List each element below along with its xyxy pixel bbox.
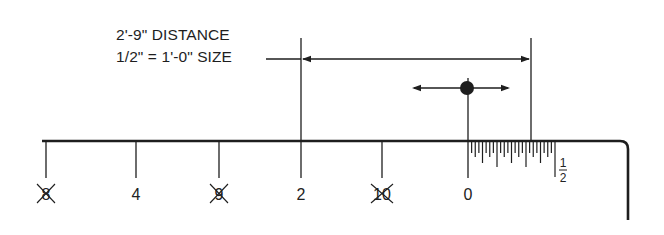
scale-drawing: 849210012 bbox=[0, 0, 664, 235]
tick-label-8: 8 bbox=[42, 186, 51, 203]
fraction-denominator: 2 bbox=[560, 171, 567, 185]
architect-scale-diagram: 2'-9" DISTANCE 1/2" = 1'-0" SIZE 8492100… bbox=[0, 0, 664, 235]
fraction-numerator: 1 bbox=[560, 156, 567, 170]
marker-dot-icon bbox=[460, 81, 474, 95]
tick-label-4: 4 bbox=[132, 186, 141, 203]
dimension-arrow-left-icon bbox=[302, 56, 311, 62]
scale-size-label: 1/2" = 1'-0" SIZE bbox=[116, 48, 232, 66]
tick-label-9: 9 bbox=[215, 186, 224, 203]
tick-label-2: 2 bbox=[297, 186, 306, 203]
distance-label: 2'-9" DISTANCE bbox=[116, 26, 230, 44]
marker-arrow-right-icon bbox=[501, 85, 510, 91]
marker-arrow-left-icon bbox=[412, 85, 421, 91]
dimension-arrow-right-icon bbox=[521, 56, 530, 62]
tick-label-0: 0 bbox=[464, 186, 473, 203]
